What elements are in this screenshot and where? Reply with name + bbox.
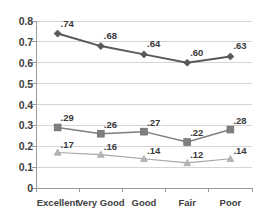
data-point-marker <box>184 139 191 146</box>
line-chart: 0.80.70.60.50.40.30.20.10 ExcellentVery … <box>0 0 266 223</box>
data-point-label: .68 <box>104 31 117 41</box>
data-point-label: .60 <box>190 48 203 58</box>
data-point-marker <box>227 53 234 60</box>
data-point-marker <box>54 124 61 131</box>
y-axis-tick-label: 0.3 <box>3 120 33 131</box>
data-point-label: .63 <box>233 41 246 51</box>
data-point-label: .29 <box>61 113 74 123</box>
y-axis-tick-label: 0.8 <box>3 16 33 27</box>
y-axis-tick-label: 0 <box>3 183 33 194</box>
data-point-marker <box>227 126 234 133</box>
data-point-label: .14 <box>233 146 246 156</box>
data-point-label: .12 <box>190 150 203 160</box>
gridlines <box>36 21 252 188</box>
data-point-label: .14 <box>147 146 160 156</box>
data-point-marker <box>184 59 191 66</box>
y-axis-tick-label: 0.5 <box>3 79 33 90</box>
data-point-marker <box>140 51 147 58</box>
y-axis-tick-label: 0.2 <box>3 141 33 152</box>
x-axis-ticks <box>36 188 252 192</box>
data-point-label: .28 <box>233 116 246 126</box>
data-point-marker <box>97 130 104 137</box>
data-point-label: .64 <box>147 39 160 49</box>
x-axis-tick-label: Poor <box>200 198 260 208</box>
data-point-label: .74 <box>61 19 74 29</box>
plot-area <box>0 0 266 223</box>
y-axis-tick-label: 0.6 <box>3 58 33 69</box>
data-point-marker <box>97 42 104 49</box>
series-markers <box>54 30 234 166</box>
data-point-marker <box>54 30 61 37</box>
data-point-label: .27 <box>147 118 160 128</box>
data-point-label: .22 <box>190 128 203 138</box>
data-point-label: .26 <box>104 120 117 130</box>
y-axis-tick-label: 0.7 <box>3 37 33 48</box>
data-point-label: .17 <box>61 140 74 150</box>
y-axis-tick-label: 0.4 <box>3 100 33 111</box>
data-point-marker <box>141 128 148 135</box>
data-point-label: .16 <box>104 142 117 152</box>
y-axis-tick-label: 0.1 <box>3 162 33 173</box>
